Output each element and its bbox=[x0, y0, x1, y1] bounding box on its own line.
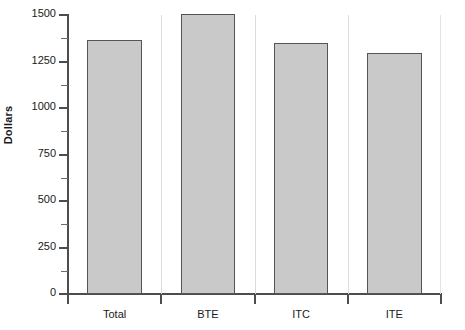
y-axis-minor-tick bbox=[61, 131, 68, 132]
plot-right-edge bbox=[440, 15, 441, 294]
y-axis-minor-tick bbox=[61, 178, 68, 179]
bar[interactable] bbox=[87, 40, 142, 294]
bar[interactable] bbox=[367, 53, 422, 294]
y-axis-tick bbox=[59, 200, 68, 202]
y-axis-minor-tick bbox=[61, 224, 68, 225]
x-axis-tick bbox=[440, 294, 442, 304]
y-axis-tick bbox=[59, 14, 68, 16]
y-axis-tick-label: 1500 bbox=[12, 7, 56, 19]
y-axis-tick bbox=[59, 107, 68, 109]
y-axis-tick bbox=[59, 154, 68, 156]
panel-separator bbox=[255, 15, 256, 294]
x-axis-category-label: Total bbox=[68, 308, 161, 320]
y-axis-tick-label: 0 bbox=[12, 286, 56, 298]
x-axis-tick bbox=[347, 294, 349, 304]
x-axis-category-label: ITE bbox=[348, 308, 441, 320]
bar[interactable] bbox=[181, 14, 236, 294]
y-axis-tick-label: 1000 bbox=[12, 100, 56, 112]
bar-chart: Dollars 0250500750100012501500 TotalBTEI… bbox=[0, 0, 465, 330]
y-axis-tick bbox=[59, 247, 68, 249]
y-axis-tick bbox=[59, 61, 68, 63]
y-axis-minor-tick bbox=[61, 85, 68, 86]
x-axis-tick bbox=[254, 294, 256, 304]
y-axis-minor-tick bbox=[61, 271, 68, 272]
plot-area bbox=[68, 15, 441, 294]
x-axis-category-label: BTE bbox=[161, 308, 254, 320]
y-axis-tick-label: 250 bbox=[12, 240, 56, 252]
x-axis-tick bbox=[160, 294, 162, 304]
x-axis-tick bbox=[67, 294, 69, 304]
y-axis-minor-tick bbox=[61, 38, 68, 39]
panel-separator bbox=[348, 15, 349, 294]
y-axis-tick-label: 1250 bbox=[12, 54, 56, 66]
panel-separator bbox=[161, 15, 162, 294]
x-axis-category-label: ITC bbox=[255, 308, 348, 320]
bar[interactable] bbox=[274, 43, 329, 294]
y-axis-tick-label: 750 bbox=[12, 147, 56, 159]
y-axis-tick-label: 500 bbox=[12, 193, 56, 205]
